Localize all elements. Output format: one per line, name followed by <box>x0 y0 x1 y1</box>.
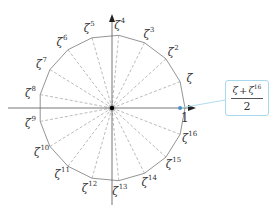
root-label-zeta-16: ζ16 <box>182 132 197 144</box>
root-label-zeta-6: ζ6 <box>56 36 67 48</box>
root-label-base: ζ <box>56 35 62 48</box>
root-label-base: ζ <box>25 86 31 99</box>
callout-plus: + <box>239 85 247 96</box>
root-label-base: ζ <box>36 58 42 71</box>
root-label-base: ζ <box>82 181 88 194</box>
callout-exponent: 16 <box>254 83 262 90</box>
root-label-zeta-2: ζ2 <box>168 46 179 58</box>
midpoint-marker <box>178 106 182 110</box>
callout-denominator: 2 <box>244 99 251 112</box>
root-label-base: ζ <box>112 184 118 197</box>
root-label-base: ζ <box>54 168 60 181</box>
spoke-line <box>68 50 112 108</box>
root-label-zeta-9: ζ9 <box>25 117 36 129</box>
spoke-line <box>112 82 180 108</box>
root-label-exponent: 16 <box>188 130 197 138</box>
root-label-exponent: 5 <box>90 20 94 28</box>
center-point <box>110 106 114 110</box>
root-label-zeta-14: ζ14 <box>141 176 156 188</box>
root-label-exponent: 8 <box>31 85 35 93</box>
root-label-zeta-4: ζ4 <box>114 19 125 31</box>
spoke-line <box>112 108 180 134</box>
root-label-base: ζ <box>25 117 31 130</box>
root-label-zeta-15: ζ15 <box>166 158 181 170</box>
root-label-zeta-8: ζ8 <box>25 87 36 99</box>
root-label-exponent: 4 <box>121 17 125 25</box>
root-label-zeta-7: ζ7 <box>36 58 47 70</box>
root-label-zeta-5: ζ5 <box>84 22 95 34</box>
root-label-exponent: 9 <box>31 115 35 123</box>
root-label-exponent: 13 <box>119 183 128 191</box>
spoke-line <box>112 108 166 157</box>
callout-numerator: ζ+ζ16 <box>231 84 264 98</box>
root-label-base: ζ <box>34 145 40 158</box>
root-label-exponent: 15 <box>172 156 181 164</box>
root-label-zeta-10: ζ10 <box>34 146 49 158</box>
callout-zeta: ζ <box>233 85 238 96</box>
root-label-base: ζ <box>141 176 147 189</box>
root-label-base: ζ <box>143 27 149 40</box>
root-label-base: ζ <box>84 22 90 35</box>
roots-of-unity-diagram: ζζ2ζ3ζ4ζ5ζ6ζ7ζ8ζ9ζ10ζ11ζ12ζ13ζ14ζ15ζ16 1… <box>0 0 280 218</box>
root-label-exponent: 10 <box>40 144 49 152</box>
real-unit-label: 1 <box>181 111 189 125</box>
root-label-zeta-13: ζ13 <box>112 185 127 197</box>
spoke-line <box>68 108 112 166</box>
root-label-zeta-3: ζ3 <box>143 28 154 40</box>
root-label-exponent: 7 <box>42 56 46 64</box>
callout-connector <box>180 100 225 108</box>
callout-box: ζ+ζ16 2 <box>225 80 269 116</box>
root-label-zeta-12: ζ12 <box>82 182 97 194</box>
spoke-line <box>92 38 112 108</box>
spoke-line <box>112 59 166 108</box>
root-label-exponent: 14 <box>148 174 157 182</box>
root-label-zeta-11: ζ11 <box>54 168 69 180</box>
root-label-base: ζ <box>114 19 120 32</box>
root-label-exponent: 3 <box>150 26 154 34</box>
root-label-exponent: 6 <box>63 34 67 42</box>
root-label-exponent: 2 <box>174 44 178 52</box>
root-label-base: ζ <box>168 46 174 59</box>
root-label-base: ζ <box>182 132 188 145</box>
spoke-line <box>92 108 112 178</box>
root-label-base: ζ <box>186 72 192 85</box>
root-label-base: ζ <box>166 158 172 171</box>
root-label-exponent: 11 <box>61 166 70 174</box>
root-label-zeta-1: ζ <box>186 73 192 84</box>
root-label-exponent: 12 <box>88 180 97 188</box>
